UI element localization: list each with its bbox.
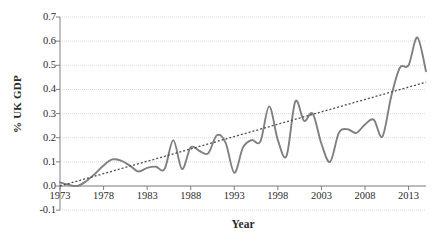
plot-area — [0, 0, 439, 236]
data-line-uk-gdp — [60, 37, 426, 186]
x-axis-tick-marks — [60, 186, 409, 190]
gridlines — [60, 17, 426, 210]
x-axis-title: Year — [60, 218, 426, 230]
trendline — [60, 82, 426, 186]
y-axis-tick-marks — [56, 17, 60, 210]
chart-container: % UK GDP 0.70.60.50.40.30.20.10.0-0.1 19… — [0, 0, 439, 236]
